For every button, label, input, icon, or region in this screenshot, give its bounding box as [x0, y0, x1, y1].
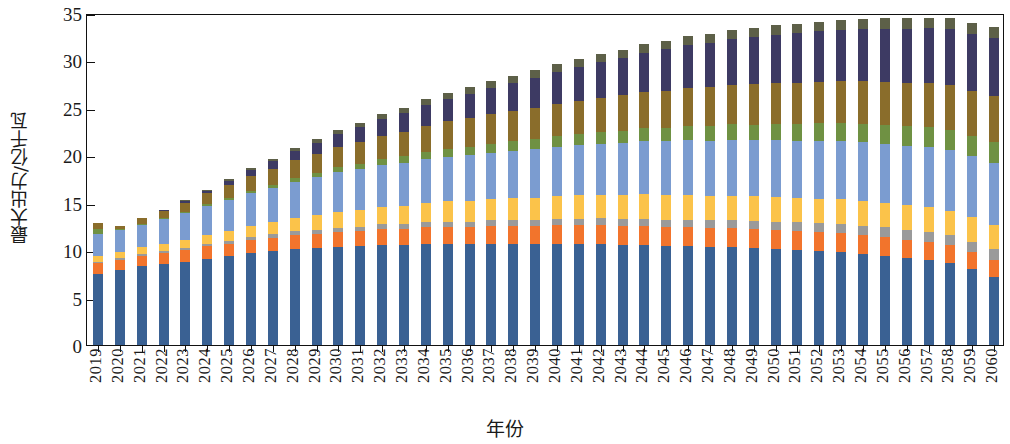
x-tick-label: 2053 [831, 348, 848, 383]
x-tick-label: 2028 [285, 348, 302, 383]
bar-segment-coal [727, 247, 737, 345]
bar [355, 122, 365, 345]
bar-segment-other [924, 18, 934, 29]
bar-segment-biomass [180, 203, 190, 212]
bar-segment-coal [880, 256, 890, 345]
bar-segment-biomass [836, 81, 846, 123]
bar-segment-solar [552, 136, 562, 147]
bar-segment-gas [443, 227, 453, 244]
bar-segment-nuclear [836, 224, 846, 233]
bar-segment-coal [771, 249, 781, 345]
bar-segment-other [683, 36, 693, 45]
bar-segment-solar [967, 136, 977, 157]
bar-segment-coal [355, 246, 365, 345]
bar-segment-wind [377, 165, 387, 207]
bar [814, 22, 824, 345]
bar-segment-coal [465, 244, 475, 345]
bar-segment-wind [727, 140, 737, 196]
x-tick-label: 2036 [460, 348, 477, 383]
bar-segment-wind [93, 234, 103, 257]
bar-segment-solar [771, 124, 781, 140]
x-tick-label: 2021 [132, 348, 149, 383]
bar [268, 159, 278, 345]
bar-segment-storage [945, 29, 955, 85]
x-tick-label: 2056 [897, 348, 914, 383]
y-tick-mark [87, 157, 95, 158]
bar-segment-solar [792, 124, 802, 141]
bar-segment-biomass [486, 114, 496, 143]
bar-segment-coal [486, 244, 496, 345]
bar-segment-other [486, 81, 496, 88]
bar-segment-coal [508, 244, 518, 345]
bar-segment-storage [792, 33, 802, 82]
bar-segment-gas [290, 235, 300, 249]
bar-segment-gas [486, 226, 496, 244]
bar-segment-storage [552, 72, 562, 104]
bar-segment-gas [705, 228, 715, 247]
bar-segment-wind [858, 142, 868, 201]
y-tick-label: 5 [46, 289, 82, 308]
bar-segment-hydro [858, 201, 868, 226]
bar-segment-coal [377, 245, 387, 345]
y-axis-title: 最大出力/亿千瓦 [2, 0, 40, 356]
bar-segment-biomass [224, 185, 234, 198]
bar-segment-hydro [465, 201, 475, 222]
bar-segment-gas [771, 230, 781, 249]
bar-segment-wind [246, 193, 256, 225]
bar-segment-wind [814, 141, 824, 199]
bar-segment-hydro [792, 198, 802, 223]
bar-segment-gas [924, 242, 934, 260]
bar-segment-hydro [312, 215, 322, 230]
bar-segment-solar [814, 123, 824, 140]
bar-segment-biomass [902, 83, 912, 127]
bar-segment-storage [530, 78, 540, 108]
bar-segment-nuclear [683, 220, 693, 228]
bar-segment-wind [552, 147, 562, 196]
bar-segment-coal [93, 274, 103, 345]
bar-segment-gas [683, 227, 693, 246]
bar-segment-biomass [312, 154, 322, 173]
bar-segment-nuclear [727, 220, 737, 228]
bar-segment-coal [836, 252, 846, 345]
bar-segment-solar [486, 144, 496, 153]
bar-segment-hydro [137, 247, 147, 254]
bar-segment-other [552, 64, 562, 71]
bar-segment-coal [814, 251, 824, 345]
bar-segment-wind [705, 141, 715, 196]
y-tick-label: 30 [46, 52, 82, 71]
bar [552, 64, 562, 345]
bar-segment-coal [924, 260, 934, 345]
bar-segment-other [880, 18, 890, 28]
bar-segment-hydro [333, 212, 343, 228]
bar-segment-other [705, 34, 715, 43]
bar-segment-nuclear [792, 222, 802, 231]
bar-segment-wind [202, 206, 212, 234]
bar-segment-coal [618, 245, 628, 345]
y-tick-mark [87, 62, 95, 63]
x-tick-label: 2047 [700, 348, 717, 383]
bar-segment-biomass [771, 83, 781, 124]
bar-segment-wind [443, 157, 453, 202]
bar-segment-biomass [661, 91, 671, 128]
bar-segment-nuclear [814, 223, 824, 232]
bar-segment-gas [814, 232, 824, 251]
x-axis-title: 年份 [0, 414, 1010, 441]
bar [312, 139, 322, 345]
bar-segment-solar [399, 156, 409, 163]
bar-segment-wind [902, 146, 912, 206]
bar-segment-hydro [530, 198, 540, 220]
plot-inner [87, 15, 1003, 345]
bar-segment-storage [858, 29, 868, 81]
plot-area [86, 14, 1004, 346]
bar-segment-coal [661, 246, 671, 345]
x-tick-label: 2041 [569, 348, 586, 383]
x-tick-label: 2049 [744, 348, 761, 383]
bar [771, 25, 781, 345]
bar-segment-nuclear [749, 221, 759, 229]
bar-segment-coal [749, 248, 759, 345]
bar-segment-hydro [639, 194, 649, 219]
bar-segment-biomass [574, 101, 584, 134]
bar-segment-biomass [377, 136, 387, 159]
bar-segment-other [814, 22, 824, 32]
bar-segment-coal [596, 244, 606, 345]
